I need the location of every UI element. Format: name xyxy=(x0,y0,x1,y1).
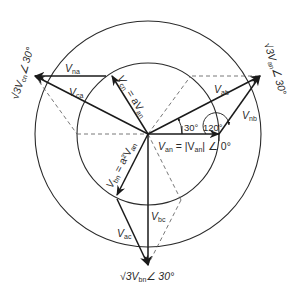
line-voltage-bc-label: √3Vbn∠ 30° xyxy=(120,270,174,283)
vcn-equation-label: Vcn = aVan xyxy=(114,73,150,120)
dashed-ca-to-left xyxy=(35,76,77,134)
label-vna: Vna xyxy=(65,62,80,75)
phasor-diagram: 30° 120° Van = |Van| ∠ 0° Vcn = aVan Vbn… xyxy=(0,0,295,289)
label-vca: Vca xyxy=(69,86,84,99)
angle-arc-30 xyxy=(178,118,182,134)
vector-vca xyxy=(35,76,148,134)
label-vab: Vab xyxy=(214,83,229,96)
angle-120-label: 120° xyxy=(203,122,223,133)
line-voltage-ab-label: √3Van∠ 30° xyxy=(261,41,289,97)
label-vnb: Vnb xyxy=(242,109,257,122)
angle-30-label: 30° xyxy=(184,122,199,133)
vbn-equation-label: Vbn = a²Van xyxy=(103,139,138,190)
label-vbc: Vbc xyxy=(151,210,166,223)
label-vac: Vac xyxy=(117,227,132,240)
line-voltage-ca-label: √3Vcn∠ 30° xyxy=(8,46,36,101)
van-equation-label: Van = |Van| ∠ 0° xyxy=(158,140,231,153)
vector-vnb xyxy=(219,76,260,134)
